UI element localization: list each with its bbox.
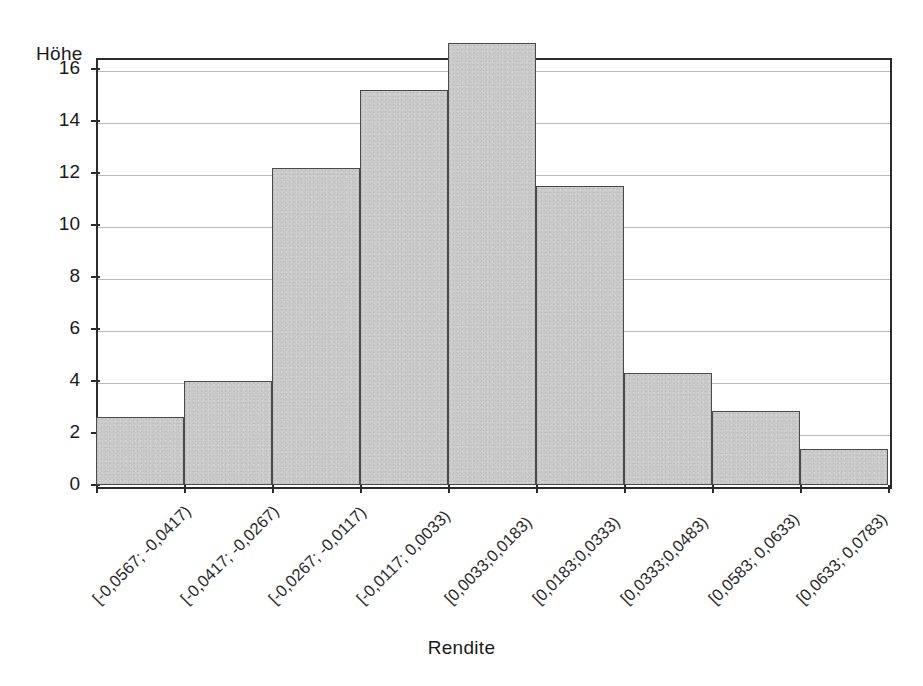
bar <box>448 43 536 485</box>
bar <box>360 90 448 485</box>
x-category-label: [0,0183;0,0333) <box>529 513 624 608</box>
x-category-label: [0,0333;0,0483) <box>617 513 712 608</box>
y-tick-mark <box>91 380 100 382</box>
x-tick-mark <box>184 485 186 493</box>
x-tick-mark <box>536 485 538 493</box>
y-tick-label: 14 <box>34 109 80 131</box>
bar <box>712 411 800 485</box>
y-tick-mark <box>91 172 100 174</box>
histogram-chart: Höhe 0246810121416 [-0,0567; -0,0417)[-0… <box>0 0 923 686</box>
x-axis-title: Rendite <box>0 637 923 659</box>
x-category-label: [0,0633; 0,0783) <box>793 510 891 608</box>
x-tick-mark <box>624 485 626 493</box>
bar <box>800 449 888 485</box>
bar <box>624 373 712 485</box>
y-tick-label: 16 <box>34 57 80 79</box>
x-category-label: [-0,0117; 0,0033) <box>353 507 454 608</box>
y-tick-label: 8 <box>34 265 80 287</box>
y-tick-label: 12 <box>34 161 80 183</box>
x-tick-mark <box>800 485 802 493</box>
y-tick-mark <box>91 68 100 70</box>
bar <box>96 417 184 485</box>
x-tick-mark <box>712 485 714 493</box>
x-tick-mark <box>272 485 274 493</box>
y-tick-label: 4 <box>34 369 80 391</box>
bar <box>272 168 360 485</box>
x-category-label: [0,0583; 0,0633) <box>705 510 803 608</box>
y-tick-mark <box>91 120 100 122</box>
y-tick-label: 10 <box>34 213 80 235</box>
x-tick-mark <box>888 485 890 493</box>
bar <box>536 186 624 485</box>
x-category-label: [0,0033;0,0183) <box>441 513 536 608</box>
bar <box>184 381 272 485</box>
y-tick-mark <box>91 328 100 330</box>
x-tick-mark <box>448 485 450 493</box>
x-tick-mark <box>96 485 98 493</box>
y-tick-mark <box>91 224 100 226</box>
y-tick-mark <box>91 276 100 278</box>
y-tick-label: 6 <box>34 317 80 339</box>
x-tick-mark <box>360 485 362 493</box>
y-tick-label: 0 <box>34 473 80 495</box>
y-tick-label: 2 <box>34 421 80 443</box>
